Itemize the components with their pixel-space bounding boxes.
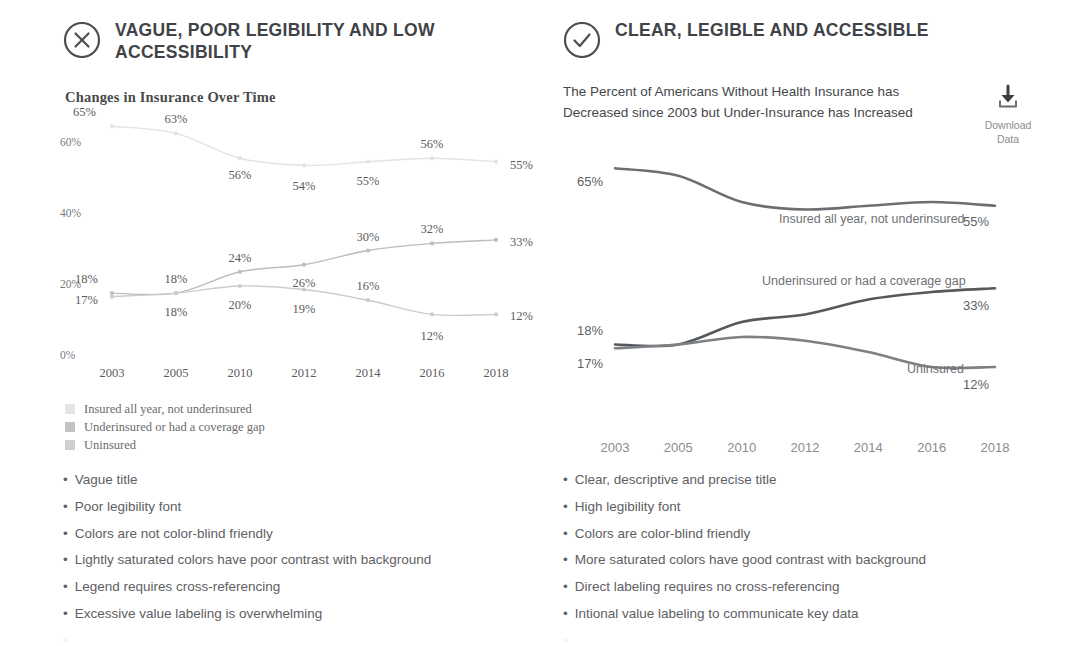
bad-data-point bbox=[430, 241, 434, 245]
bad-chart-title: Changes in Insurance Over Time bbox=[65, 89, 276, 106]
bad-value-label: 19% bbox=[293, 302, 316, 317]
bad-x-axis-tick: 2016 bbox=[420, 366, 445, 381]
good-series-direct-label: Uninsured bbox=[907, 362, 964, 376]
good-value-label: 12% bbox=[963, 377, 989, 392]
legend-item: Insured all year, not underinsured bbox=[65, 400, 265, 418]
bullet-text: Lightly saturated colors have poor contr… bbox=[75, 550, 431, 570]
bad-data-point bbox=[174, 131, 178, 135]
good-panel-header: CLEAR, LEGIBLE AND ACCESSIBLE bbox=[563, 20, 1013, 59]
bad-value-label: 18% bbox=[165, 305, 188, 320]
bad-value-label: 18% bbox=[75, 272, 98, 287]
bullet-text: Vague title bbox=[75, 470, 138, 490]
bad-x-axis-tick: 2003 bbox=[100, 366, 125, 381]
bad-value-label: 63% bbox=[165, 112, 188, 127]
bad-data-point bbox=[366, 248, 370, 252]
circle-x-icon bbox=[63, 21, 101, 59]
good-chart: Insured all year, not underinsuredUnderi… bbox=[557, 162, 1037, 462]
bad-chart-svg bbox=[60, 110, 540, 385]
bad-value-label: 16% bbox=[357, 279, 380, 294]
bad-value-label: 65% bbox=[73, 105, 96, 120]
bad-value-label: 56% bbox=[421, 137, 444, 152]
bad-bullet-list: •Vague title•Poor legibility font•Colors… bbox=[63, 470, 533, 646]
good-bullet-cutoff: • bbox=[563, 631, 1043, 646]
bad-x-axis-tick: 2014 bbox=[356, 366, 381, 381]
bad-y-axis-tick: 40% bbox=[60, 207, 81, 219]
bullet-dot: • bbox=[63, 604, 68, 624]
good-bullet: •Clear, descriptive and precise title bbox=[563, 470, 1043, 490]
bad-data-point bbox=[238, 270, 242, 274]
good-chart-title: The Percent of Americans Without Health … bbox=[563, 82, 963, 124]
bad-value-label: 26% bbox=[293, 276, 316, 291]
bad-bullet: •Colors are not color-blind friendly bbox=[63, 524, 533, 544]
good-panel-title: CLEAR, LEGIBLE AND ACCESSIBLE bbox=[615, 20, 929, 42]
bullet-dot: • bbox=[563, 524, 568, 544]
bullet-dot: • bbox=[563, 550, 568, 570]
bad-value-label: 55% bbox=[510, 158, 533, 173]
legend-swatch bbox=[65, 422, 75, 432]
good-value-label: 55% bbox=[963, 214, 989, 229]
bullet-text: Intional value labeling to communicate k… bbox=[575, 604, 859, 624]
bad-y-axis-tick: 60% bbox=[60, 136, 81, 148]
bad-y-axis-tick: 0% bbox=[60, 349, 75, 361]
good-x-axis-tick: 2010 bbox=[727, 440, 756, 455]
bad-data-point bbox=[302, 263, 306, 267]
good-line-series bbox=[615, 168, 995, 209]
good-bullet: •More saturated colors have good contras… bbox=[563, 550, 1043, 570]
bullet-dot: • bbox=[563, 604, 568, 624]
bullet-text: Direct labeling requires no cross-refere… bbox=[575, 577, 840, 597]
bad-data-point bbox=[366, 160, 370, 164]
bullet-text: More saturated colors have good contrast… bbox=[575, 550, 926, 570]
good-x-axis-tick: 2003 bbox=[601, 440, 630, 455]
bad-value-label: 24% bbox=[229, 251, 252, 266]
bullet-dot: • bbox=[563, 577, 568, 597]
good-x-axis-tick: 2012 bbox=[791, 440, 820, 455]
bad-chart: 0%20%40%60%20032005201020122014201620186… bbox=[60, 110, 540, 385]
download-icon bbox=[977, 84, 1039, 114]
bad-x-axis-tick: 2010 bbox=[228, 366, 253, 381]
good-x-axis-tick: 2005 bbox=[664, 440, 693, 455]
bad-value-label: 18% bbox=[165, 272, 188, 287]
legend-item: Uninsured bbox=[65, 436, 265, 454]
bad-value-label: 20% bbox=[229, 298, 252, 313]
good-x-axis-tick: 2018 bbox=[981, 440, 1010, 455]
bullet-text: Colors are not color-blind friendly bbox=[75, 524, 273, 544]
bad-data-point bbox=[494, 160, 498, 164]
bad-value-label: 54% bbox=[293, 179, 316, 194]
good-bullet: •Direct labeling requires no cross-refer… bbox=[563, 577, 1043, 597]
good-value-label: 33% bbox=[963, 298, 989, 313]
bad-data-point bbox=[494, 238, 498, 242]
bad-data-point bbox=[110, 124, 114, 128]
good-series-direct-label: Underinsured or had a coverage gap bbox=[762, 274, 966, 288]
bad-data-point bbox=[430, 312, 434, 316]
bad-data-point bbox=[238, 284, 242, 288]
download-data-button[interactable]: Download Data bbox=[977, 84, 1039, 146]
bad-value-label: 12% bbox=[510, 309, 533, 324]
bad-value-label: 30% bbox=[357, 230, 380, 245]
legend-label: Uninsured bbox=[84, 438, 136, 453]
bad-data-point bbox=[494, 312, 498, 316]
bullet-dot: • bbox=[63, 497, 68, 517]
good-value-label: 65% bbox=[577, 174, 603, 189]
good-series-direct-label: Insured all year, not underinsured bbox=[779, 212, 965, 226]
legend-swatch bbox=[65, 404, 75, 414]
bad-value-label: 33% bbox=[510, 235, 533, 250]
bad-value-label: 17% bbox=[75, 293, 98, 308]
bad-data-point bbox=[174, 291, 178, 295]
bullet-dot: • bbox=[63, 550, 68, 570]
bad-x-axis-tick: 2018 bbox=[484, 366, 509, 381]
bullet-dot: • bbox=[63, 631, 68, 646]
bullet-text: Colors are color-blind friendly bbox=[575, 524, 751, 544]
bad-data-point bbox=[238, 156, 242, 160]
good-x-axis-tick: 2016 bbox=[917, 440, 946, 455]
circle-check-icon bbox=[563, 21, 601, 59]
bullet-dot: • bbox=[63, 577, 68, 597]
bad-x-axis-tick: 2012 bbox=[292, 366, 317, 381]
bad-data-point bbox=[430, 156, 434, 160]
bad-data-point bbox=[110, 295, 114, 299]
bullet-text: Excessive value labeling is overwhelming bbox=[75, 604, 323, 624]
bullet-dot: • bbox=[563, 631, 568, 646]
bad-x-axis-tick: 2005 bbox=[164, 366, 189, 381]
good-bullet-list: •Clear, descriptive and precise title•Hi… bbox=[563, 470, 1043, 646]
good-bullet: •Colors are color-blind friendly bbox=[563, 524, 1043, 544]
good-bullet: •High legibility font bbox=[563, 497, 1043, 517]
